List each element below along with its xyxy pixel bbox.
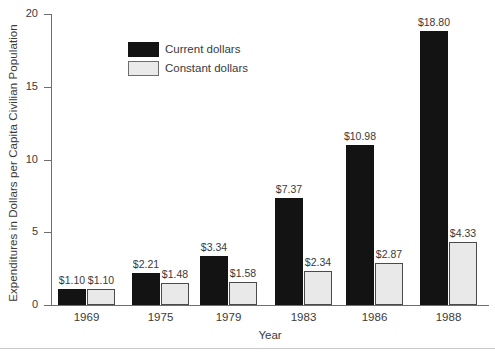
x-tick-label-1986: 1986 <box>334 311 415 324</box>
y-tick-label-5: 5 <box>10 226 38 237</box>
bar-1975-constant <box>161 283 189 305</box>
bar-value-1979-current: $3.34 <box>191 242 237 253</box>
bar-value-1983-constant: $2.34 <box>295 257 341 268</box>
bar-1969-current <box>58 289 86 305</box>
bar-value-1988-current: $18.80 <box>411 17 457 28</box>
y-tick-5 <box>44 232 51 233</box>
x-axis-line <box>51 305 489 306</box>
y-tick-label-15: 15 <box>10 81 38 92</box>
bar-1983-constant <box>304 271 332 305</box>
bar-value-1986-current: $10.98 <box>337 131 383 142</box>
bar-1986-current <box>346 145 374 305</box>
bar-1983-current <box>275 198 303 305</box>
bar-1979-current <box>200 256 228 305</box>
legend-label-current: Current dollars <box>165 42 240 57</box>
x-tick-label-1988: 1988 <box>408 311 489 324</box>
y-tick-label-20: 20 <box>10 8 38 19</box>
y-tick-10 <box>44 160 51 161</box>
bar-1969-constant <box>87 289 115 305</box>
bar-value-1988-constant: $4.33 <box>440 228 486 239</box>
y-axis-line <box>51 14 52 305</box>
y-tick-20 <box>44 14 51 15</box>
x-axis-title: Year <box>51 329 489 341</box>
x-tick-label-1983: 1983 <box>263 311 344 324</box>
legend-swatch-current-icon <box>128 42 159 57</box>
y-tick-label-10: 10 <box>10 154 38 165</box>
bar-1988-constant <box>449 242 477 305</box>
x-tick-label-1969: 1969 <box>46 311 127 324</box>
bar-1988-current <box>420 31 448 305</box>
y-tick-15 <box>44 87 51 88</box>
legend-swatch-constant-icon <box>128 61 159 76</box>
page-bottom-rule <box>0 348 495 349</box>
bar-value-1979-constant: $1.58 <box>220 268 266 279</box>
bar-value-1975-constant: $1.48 <box>152 269 198 280</box>
bar-value-1986-constant: $2.87 <box>366 249 412 260</box>
y-tick-label-0: 0 <box>10 299 38 310</box>
bar-chart-figure: Expenditures in Dollars per Capita Civil… <box>0 0 495 356</box>
legend-label-constant: Constant dollars <box>165 61 248 76</box>
bar-value-1983-current: $7.37 <box>266 184 312 195</box>
bar-1986-constant <box>375 263 403 305</box>
bar-1979-constant <box>229 282 257 305</box>
bar-value-1969-constant: $1.10 <box>78 275 124 286</box>
y-tick-0 <box>44 305 51 306</box>
x-tick-label-1979: 1979 <box>188 311 269 324</box>
